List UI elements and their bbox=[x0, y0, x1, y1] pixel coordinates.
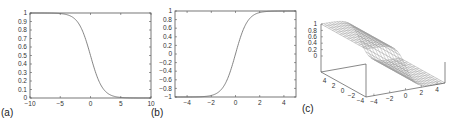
y-tick-label: −0.6 bbox=[159, 76, 172, 83]
x-tick-label: 0 bbox=[404, 92, 408, 99]
x-tick-label: 10 bbox=[147, 100, 155, 107]
z-tick-label: 0 bbox=[313, 52, 317, 59]
wireframe-mesh bbox=[321, 21, 445, 85]
x-tick-label: −5 bbox=[57, 100, 65, 107]
y-tick-label: 0.2 bbox=[18, 77, 27, 84]
z-tick-label: 0.8 bbox=[308, 27, 317, 34]
x-tick-label: −4 bbox=[183, 99, 191, 106]
y-tick-label: 0.6 bbox=[163, 24, 172, 31]
z-tick-label: 1 bbox=[313, 20, 317, 27]
panel-label-b: (b) bbox=[151, 107, 163, 118]
y-tick-label: −0.4 bbox=[159, 67, 172, 74]
x-tick-labels: −4−2024 bbox=[183, 11, 286, 106]
x-tick-label: 4 bbox=[435, 86, 439, 93]
y-tick-label: 0.9 bbox=[18, 18, 27, 25]
x-tick-label: 4 bbox=[282, 99, 286, 106]
z-tick-label: 0.4 bbox=[308, 39, 317, 46]
z-tick-label: 0.6 bbox=[308, 33, 317, 40]
y-tick-label: −0.8 bbox=[159, 85, 172, 92]
y-tick-label: 0.8 bbox=[18, 26, 27, 33]
chart-b: −1−0.8−0.6−0.4−0.200.20.40.60.81 −4−2024… bbox=[151, 7, 296, 118]
chart-c-3d-surface: 00.20.40.60.81 420−2−4 −4−2024 (c) bbox=[302, 20, 445, 114]
x-tick-label: −2 bbox=[386, 95, 394, 102]
x-tick-label: 2 bbox=[419, 89, 423, 96]
x-tick-label: 0 bbox=[234, 99, 238, 106]
figure-canvas: 00.10.20.30.40.50.60.70.80.91 −10−50510 … bbox=[0, 0, 460, 124]
y-tick-label: 4 bbox=[323, 77, 327, 84]
chart-a: 00.10.20.30.40.50.60.70.80.91 −10−50510 … bbox=[1, 9, 155, 118]
y-tick-label: 0.4 bbox=[18, 60, 27, 67]
y-tick-label: 0.3 bbox=[18, 69, 27, 76]
y-tick-label: 0.6 bbox=[18, 43, 27, 50]
y-tick-label: −2 bbox=[348, 92, 356, 99]
y-tick-label: 0.4 bbox=[163, 33, 172, 40]
x-tick-label: −10 bbox=[24, 100, 35, 107]
y-tick-label: 0.5 bbox=[18, 52, 27, 59]
y-tick-label: 2 bbox=[332, 82, 336, 89]
y-tick-label: 0 bbox=[341, 87, 345, 94]
x-tick-label: −2 bbox=[208, 99, 216, 106]
panel-label-c: (c) bbox=[302, 103, 314, 114]
x-tick-labels: −10−50510 bbox=[24, 13, 155, 107]
panel-label-a: (a) bbox=[1, 107, 13, 118]
y-tick-labels: 00.10.20.30.40.50.60.70.80.91 bbox=[18, 9, 151, 101]
y-tick-label: 0.2 bbox=[163, 42, 172, 49]
x-tick-label: 2 bbox=[258, 99, 262, 106]
y-tick-label: 0.8 bbox=[163, 16, 172, 23]
x-tick-label: 0 bbox=[89, 100, 93, 107]
y-tick-labels: 420−2−4 bbox=[323, 77, 365, 104]
sigmoid-curve bbox=[30, 13, 151, 98]
z-tick-label: 0.2 bbox=[308, 46, 317, 53]
y-tick-label: 0.7 bbox=[18, 35, 27, 42]
y-tick-label: 0 bbox=[168, 50, 172, 57]
y-tick-label: 1 bbox=[23, 9, 27, 16]
y-tick-label: −1 bbox=[165, 93, 173, 100]
tanh-curve bbox=[175, 11, 296, 97]
y-tick-label: −4 bbox=[357, 97, 365, 104]
x-tick-label: 5 bbox=[119, 100, 123, 107]
x-tick-label: −4 bbox=[370, 98, 378, 105]
y-tick-label: 1 bbox=[168, 7, 172, 14]
y-tick-labels: −1−0.8−0.6−0.4−0.200.20.40.60.81 bbox=[159, 7, 296, 100]
y-tick-label: −0.2 bbox=[159, 59, 172, 66]
y-tick-label: 0.1 bbox=[18, 86, 27, 93]
